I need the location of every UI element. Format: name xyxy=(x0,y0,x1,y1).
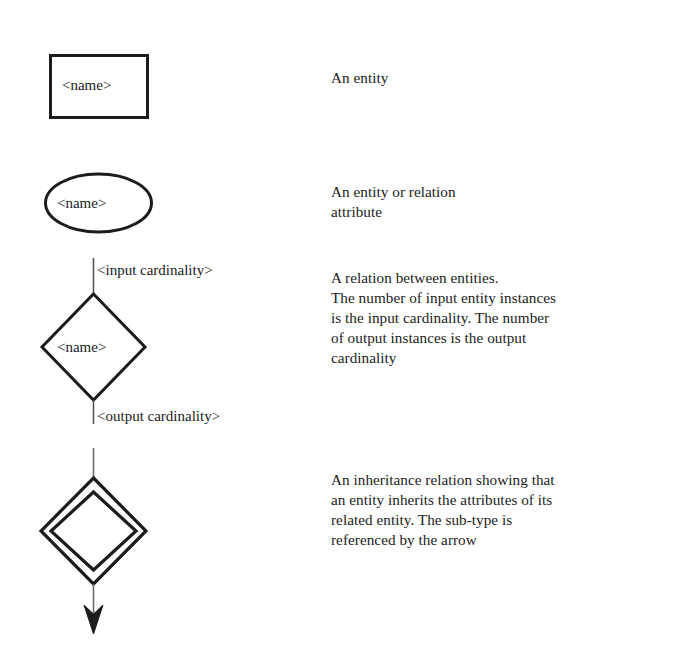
relation-name-label: <name> xyxy=(57,340,106,355)
entity-description: An entity xyxy=(331,68,388,88)
inheritance-description: An inheritance relation showing that an … xyxy=(331,470,555,550)
attribute-description: An entity or relation attribute xyxy=(331,182,456,222)
output-cardinality-label: <output cardinality> xyxy=(97,409,220,424)
input-cardinality-label: <input cardinality> xyxy=(97,263,213,278)
legend-canvas: <name> <name> <input cardinality> <name>… xyxy=(0,0,699,652)
relation-description: A relation between entities. The number … xyxy=(331,268,556,368)
inheritance-inner-diamond-shape xyxy=(51,492,136,570)
attribute-name-label: <name> xyxy=(57,196,106,211)
entity-name-label: <name> xyxy=(62,78,111,93)
